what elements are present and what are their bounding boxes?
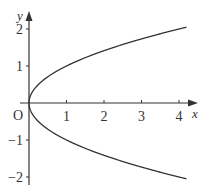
y-tick-label: −2 bbox=[8, 170, 23, 185]
y-tick-label: 1 bbox=[16, 59, 23, 74]
y-tick-label: −1 bbox=[8, 133, 23, 148]
x-tick-label: 4 bbox=[176, 109, 183, 124]
origin-label: O bbox=[13, 108, 23, 123]
x-tick-labels: 1 2 3 4 bbox=[63, 109, 183, 124]
x-tick-label: 2 bbox=[101, 109, 108, 124]
x-tick-label: 3 bbox=[138, 109, 145, 124]
parabola-chart: 1 2 3 4 2 1 −1 −2 y x O bbox=[0, 0, 206, 194]
y-axis-label: y bbox=[15, 8, 23, 23]
lower-branch-curve bbox=[29, 103, 187, 179]
y-tick-label: 2 bbox=[16, 22, 23, 37]
y-axis-arrow-icon bbox=[26, 11, 33, 21]
axes bbox=[20, 11, 198, 185]
upper-branch-curve bbox=[29, 27, 187, 103]
x-tick-label: 1 bbox=[63, 109, 70, 124]
x-axis-label: x bbox=[191, 106, 198, 121]
